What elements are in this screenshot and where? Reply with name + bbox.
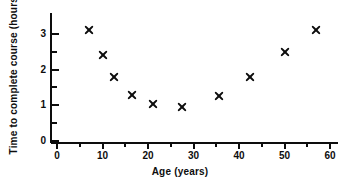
- x-tick-60: [329, 143, 331, 149]
- x-axis-title: Age (years): [0, 166, 360, 177]
- data-point: [214, 92, 223, 101]
- y-tick-2: [52, 69, 59, 71]
- y-tick-3: [52, 33, 59, 35]
- x-tick-label-60: 60: [324, 151, 335, 161]
- x-tick-label-40: 40: [233, 151, 244, 161]
- y-tick-label-3: 3: [34, 29, 46, 39]
- y-tick-label-1: 1: [34, 100, 46, 110]
- x-tick-0: [56, 143, 58, 149]
- x-minor-tick-35: [215, 143, 217, 147]
- y-axis-title: Time to complete course (hours): [8, 5, 19, 155]
- x-minor-tick-45: [261, 143, 263, 147]
- data-point: [109, 72, 118, 81]
- data-point: [148, 99, 157, 108]
- x-tick-label-20: 20: [142, 151, 153, 161]
- y-minor-tick-2.5: [52, 51, 57, 53]
- x-tick-50: [284, 143, 286, 149]
- scatter-plot-figure: 0102030405060 0123 Age (years) Time to c…: [0, 0, 360, 191]
- x-axis-line: [51, 142, 338, 144]
- x-tick-label-0: 0: [54, 151, 60, 161]
- x-tick-40: [238, 143, 240, 149]
- x-minor-tick-5: [79, 143, 81, 147]
- data-point: [246, 72, 255, 81]
- x-tick-10: [102, 143, 104, 149]
- data-point: [312, 26, 321, 35]
- y-tick-1: [52, 104, 59, 106]
- y-tick-0: [52, 140, 59, 142]
- data-point: [178, 103, 187, 112]
- x-minor-tick-55: [306, 143, 308, 147]
- x-tick-label-10: 10: [97, 151, 108, 161]
- x-tick-label-30: 30: [188, 151, 199, 161]
- y-tick-label-2: 2: [34, 65, 46, 75]
- data-point: [280, 47, 289, 56]
- data-point: [84, 26, 93, 35]
- x-minor-tick-25: [170, 143, 172, 147]
- x-tick-label-50: 50: [279, 151, 290, 161]
- data-point: [128, 90, 137, 99]
- data-point: [98, 51, 107, 60]
- y-minor-tick-0.5: [52, 122, 57, 124]
- x-minor-tick-15: [124, 143, 126, 147]
- y-tick-label-0: 0: [34, 136, 46, 146]
- y-minor-tick-1.5: [52, 86, 57, 88]
- x-tick-30: [193, 143, 195, 149]
- x-tick-20: [147, 143, 149, 149]
